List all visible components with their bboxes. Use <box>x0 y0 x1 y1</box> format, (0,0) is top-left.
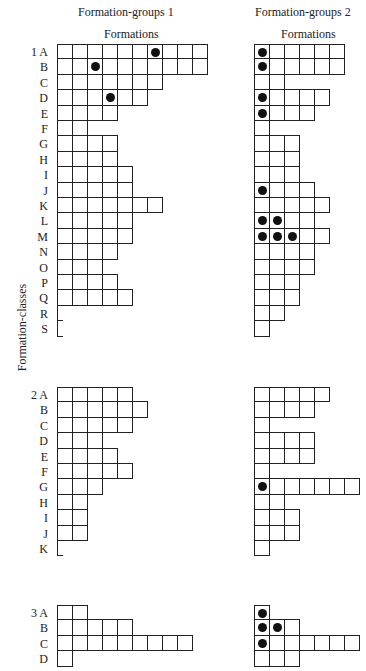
row-label: 2 A <box>18 388 48 403</box>
formation-cell <box>102 401 118 417</box>
formation-cell <box>299 228 315 244</box>
formation-cell <box>269 387 285 402</box>
formation-cell <box>57 197 73 213</box>
formation-cell <box>269 478 285 494</box>
formation-cell <box>284 166 300 182</box>
row-label: E <box>18 450 48 465</box>
formation-cell <box>102 448 118 464</box>
formation-cell <box>254 417 270 433</box>
formation-cell <box>284 197 300 213</box>
formation-cell <box>254 320 270 336</box>
formation-cell <box>87 151 103 167</box>
formation-cell <box>102 105 118 121</box>
formation-cell <box>284 182 300 198</box>
formation-cell <box>72 243 88 259</box>
formation-cell <box>57 289 73 305</box>
formation-cell <box>269 401 285 417</box>
row-label: D <box>18 91 48 106</box>
formation-cell <box>117 182 133 198</box>
formation-cell <box>299 58 315 74</box>
formation-cell <box>72 432 88 448</box>
empty-row-bracket <box>57 321 63 336</box>
row-label: H <box>18 496 48 511</box>
formation-cell <box>72 259 88 275</box>
formation-cell <box>72 619 88 635</box>
formation-cell <box>87 289 103 305</box>
formation-cell <box>87 401 103 417</box>
formation-cell <box>299 259 315 275</box>
formation-cell <box>87 243 103 259</box>
formation-cell <box>102 635 118 651</box>
row-label: N <box>18 245 48 260</box>
formation-cell <box>57 151 73 167</box>
formation-cell <box>284 289 300 305</box>
formation-cell <box>102 417 118 433</box>
row-label: M <box>18 230 48 245</box>
formation-cell <box>284 274 300 290</box>
formation-cell <box>117 197 133 213</box>
row-label: O <box>18 261 48 276</box>
row-label: S <box>18 322 48 337</box>
formation-cell <box>57 448 73 464</box>
formation-cell <box>102 274 118 290</box>
formation-cell <box>314 387 330 402</box>
formation-cell <box>147 635 163 651</box>
formation-cell <box>254 166 270 182</box>
formation-cell <box>72 448 88 464</box>
formation-cell <box>254 135 270 151</box>
formation-cell <box>344 478 360 494</box>
formation-cell <box>117 289 133 305</box>
formation-cell <box>117 635 133 651</box>
formation-cell <box>269 289 285 305</box>
formation-cell <box>299 197 315 213</box>
formation-cell <box>57 120 73 136</box>
row-label: R <box>18 307 48 322</box>
formation-cell <box>57 89 73 105</box>
formation-cell <box>57 401 73 417</box>
formation-cell <box>57 274 73 290</box>
formation-cell <box>57 182 73 198</box>
formation-cell <box>87 387 103 402</box>
formation-cell <box>72 387 88 402</box>
formation-cell <box>87 197 103 213</box>
dot-icon <box>258 623 267 632</box>
formation-cell <box>254 212 270 228</box>
formation-cell <box>254 228 270 244</box>
formation-cell <box>57 58 73 74</box>
formation-cell <box>117 619 133 635</box>
formation-cell <box>284 509 300 525</box>
row-label: C <box>18 637 48 652</box>
formation-cell <box>117 74 133 90</box>
formation-cell <box>254 494 270 510</box>
formation-cell <box>269 305 285 321</box>
formation-cell <box>284 105 300 121</box>
formation-cell <box>72 274 88 290</box>
formation-cell <box>254 182 270 198</box>
formation-cell <box>72 509 88 525</box>
dot-icon <box>258 639 267 648</box>
formation-cell <box>132 401 148 417</box>
row-label: E <box>18 107 48 122</box>
dot-icon <box>258 186 267 195</box>
formation-cell <box>269 74 285 90</box>
formation-cell <box>284 228 300 244</box>
formation-cell <box>117 166 133 182</box>
row-label: C <box>18 76 48 91</box>
formation-cell <box>269 274 285 290</box>
formation-cell <box>72 135 88 151</box>
formation-cell <box>57 105 73 121</box>
formation-cell <box>72 197 88 213</box>
dot-icon <box>258 482 267 491</box>
formation-cell <box>269 166 285 182</box>
row-label: B <box>18 621 48 636</box>
row-label: K <box>18 542 48 557</box>
formation-cell <box>254 274 270 290</box>
formation-cell <box>102 212 118 228</box>
formation-cell <box>117 387 133 402</box>
formation-cell <box>284 58 300 74</box>
formation-cell <box>147 74 163 90</box>
formation-cell <box>269 89 285 105</box>
formation-cell <box>254 619 270 635</box>
formation-cell <box>284 243 300 259</box>
row-label: I <box>18 168 48 183</box>
